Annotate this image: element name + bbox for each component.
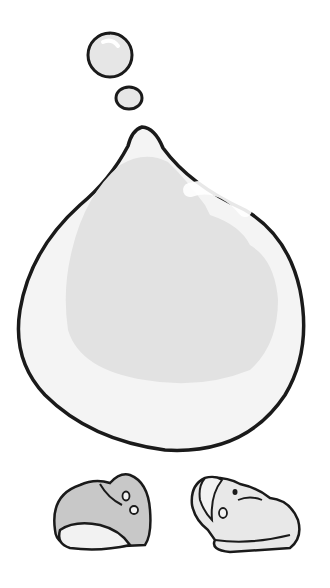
illustration-canvas	[0, 0, 330, 588]
left-shape	[54, 474, 150, 549]
water-drop	[18, 127, 303, 450]
right-shape	[192, 477, 300, 552]
bubble-large	[88, 33, 132, 77]
bubble-small	[116, 87, 142, 109]
